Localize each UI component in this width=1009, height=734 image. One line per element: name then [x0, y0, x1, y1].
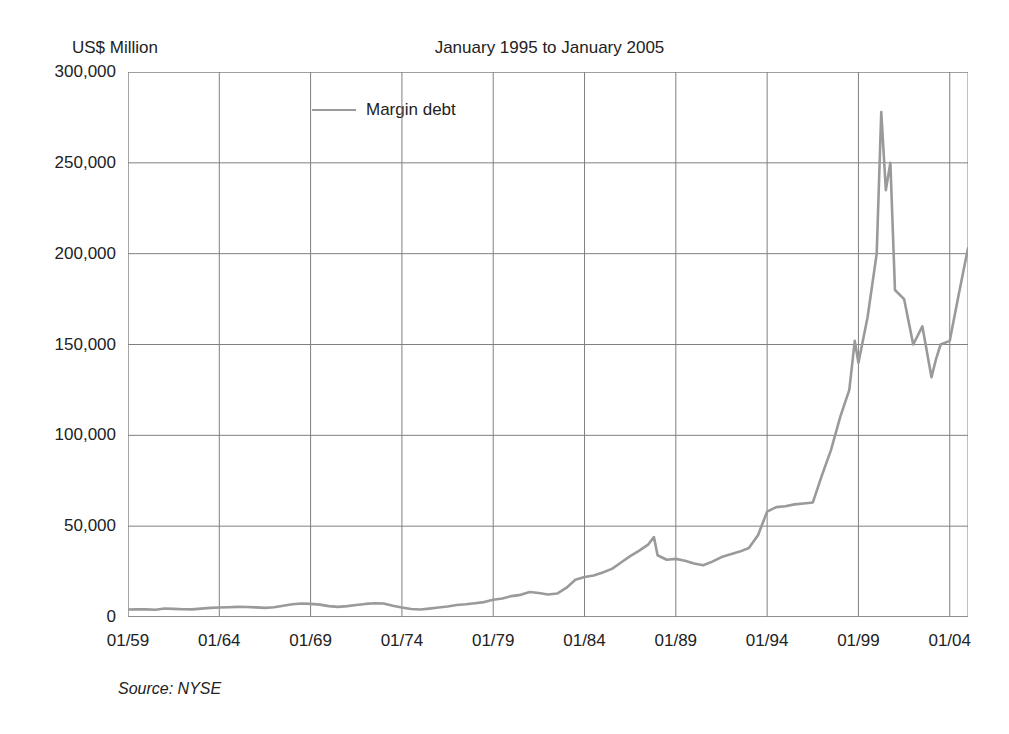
grid-lines: [128, 72, 968, 617]
plot-area: [128, 72, 968, 617]
source-note: Source: NYSE: [118, 680, 221, 698]
y-tick-50000: 50,000: [6, 516, 116, 536]
y-tick-0: 0: [6, 607, 116, 627]
plot-svg: [128, 72, 968, 617]
y-tick-150000: 150,000: [6, 335, 116, 355]
x-tick-01-04: 01/04: [895, 631, 1005, 651]
y-tick-300000: 300,000: [6, 62, 116, 82]
chart-title: January 1995 to January 2005: [0, 38, 1009, 58]
series-line-margin-debt: [128, 112, 968, 610]
y-tick-100000: 100,000: [6, 425, 116, 445]
y-tick-250000: 250,000: [6, 153, 116, 173]
margin-debt-chart: US$ Million January 1995 to January 2005…: [0, 0, 1009, 734]
y-tick-200000: 200,000: [6, 244, 116, 264]
